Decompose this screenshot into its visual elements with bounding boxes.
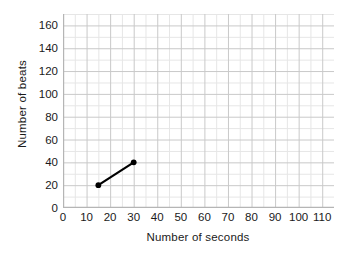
y-tick-label: 120 [0, 64, 58, 78]
x-axis-title: Number of seconds [63, 231, 333, 243]
data-point-marker[interactable] [95, 182, 101, 188]
y-tick-label: 160 [0, 18, 58, 32]
y-axis-tick-labels: 160140120100806040200 [0, 14, 58, 208]
y-tick-label: 80 [0, 110, 58, 124]
y-tick-label: 40 [0, 155, 58, 169]
data-point-marker[interactable] [131, 159, 137, 165]
y-tick-label: 140 [0, 41, 58, 55]
y-tick-label: 20 [0, 178, 58, 192]
y-tick-label: 60 [0, 133, 58, 147]
plot-svg [63, 14, 334, 208]
y-tick-label: 100 [0, 87, 58, 101]
x-axis-tick-labels: 0102030405060708090100110 [63, 210, 334, 226]
chart-container: Number of beats 160140120100806040200 01… [0, 0, 347, 260]
x-tick-label: 110 [302, 210, 342, 224]
plot-area [63, 14, 334, 208]
